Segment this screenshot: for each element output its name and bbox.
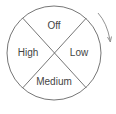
segment-label-off: Off: [47, 21, 60, 31]
clockwise-arrow-icon: [98, 13, 112, 42]
segment-label-high: High: [18, 48, 39, 58]
segment-label-low: Low: [70, 48, 88, 58]
segment-label-medium: Medium: [36, 77, 72, 87]
